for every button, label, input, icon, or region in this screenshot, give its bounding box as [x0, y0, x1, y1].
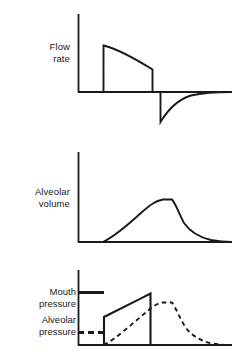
axis-label-alveolar-volume: Alveolar volume — [6, 186, 70, 209]
legend-label-alveolar-line2: pressure — [39, 326, 76, 337]
axis-label-flow-line1: Flow — [50, 41, 70, 52]
panel-pressures: Mouth pressure Alveolar pressure — [0, 255, 244, 360]
legend-label-alveolar-line1: Alveolar — [42, 314, 76, 325]
legend-label-alveolar-pressure: Alveolar pressure — [2, 314, 76, 337]
legend-label-mouth-line2: pressure — [39, 298, 76, 309]
flow-expiratory-curve — [161, 92, 233, 122]
legend-row-mouth-pressure: Mouth pressure — [2, 286, 76, 310]
panel-alveolar-volume: Alveolar volume — [0, 140, 244, 255]
mouth-pressure-curve — [104, 294, 151, 346]
flow-rate-plot — [0, 0, 244, 140]
legend-swatch-solid-line-icon — [78, 291, 104, 294]
axis-label-volume-line2: volume — [39, 198, 70, 209]
legend-label-mouth-pressure: Mouth pressure — [2, 286, 76, 309]
axis-label-flow-rate: Flow rate — [6, 41, 70, 64]
panel-flow-rate: Flow rate — [0, 0, 244, 140]
pressure-legend: Mouth pressure Alveolar pressure — [2, 286, 76, 342]
alveolar-pressure-curve — [104, 303, 232, 346]
volume-curve — [103, 200, 232, 243]
legend-label-mouth-line1: Mouth — [50, 286, 76, 297]
waveform-figure: Flow rate Alveolar volume — [0, 0, 244, 360]
axis-label-volume-line1: Alveolar — [35, 186, 70, 197]
legend-swatch-dashed-line-icon — [78, 331, 104, 334]
legend-row-alveolar-pressure: Alveolar pressure — [2, 314, 76, 338]
flow-inspiratory-curve — [104, 46, 153, 93]
axis-label-flow-line2: rate — [53, 53, 70, 64]
